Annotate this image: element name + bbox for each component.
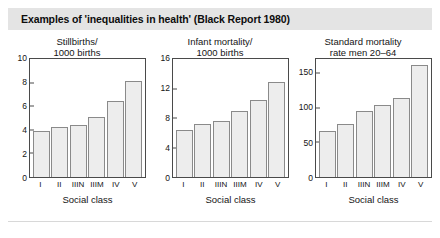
- bar: [33, 131, 50, 177]
- bar-series: [173, 59, 288, 177]
- y-tick-label: 0: [165, 174, 170, 183]
- chart-standard-mortality: Standard mortality rate men 20–64 0 50 1…: [294, 36, 432, 221]
- chart-stillbirths: Stillbirths/ 1000 births 0 2 4 6 8 10: [8, 36, 146, 221]
- bar: [356, 111, 373, 177]
- bottom-divider: [8, 221, 432, 222]
- x-tick-label: I: [317, 180, 336, 189]
- x-tick-label: IV: [249, 180, 268, 189]
- plot-frame: [172, 58, 289, 178]
- x-tick-label: II: [50, 180, 69, 189]
- x-tick-label: IIIM: [373, 180, 392, 189]
- y-tick-label: 6: [22, 102, 27, 111]
- bar: [107, 101, 124, 177]
- bar: [268, 82, 285, 177]
- chart-title-line1: Stillbirths/: [8, 36, 146, 47]
- chart-title-line1: Infant mortality/: [151, 36, 289, 47]
- bar: [337, 124, 354, 177]
- x-tick-label: IIIM: [230, 180, 249, 189]
- y-axis: 0 2 4 6 8 10: [8, 58, 29, 178]
- x-tick-label: I: [174, 180, 193, 189]
- x-axis-title: Social class: [172, 194, 289, 205]
- chart-title-line2: rate men 20–64: [294, 47, 432, 58]
- bar: [70, 125, 87, 178]
- chart-title-line2: 1000 births: [8, 47, 146, 58]
- y-tick-label: 12: [161, 84, 170, 93]
- bar: [213, 121, 230, 177]
- y-tick-label: 4: [22, 126, 27, 135]
- y-tick-label: 0: [22, 174, 27, 183]
- y-tick-label: 0: [308, 174, 313, 183]
- x-axis-labels: IIIIIINIIIMIVV: [172, 180, 289, 189]
- bar: [374, 105, 391, 177]
- bar: [411, 65, 428, 177]
- plot-frame: [29, 58, 146, 178]
- x-tick-label: V: [125, 180, 144, 189]
- y-tick-label: 4: [165, 144, 170, 153]
- plot-area: 0 50 100 150: [294, 58, 432, 178]
- y-tick-label: 8: [22, 78, 27, 87]
- x-tick-label: V: [411, 180, 430, 189]
- y-axis: 0 50 100 150: [294, 58, 315, 178]
- y-tick-label: 50: [304, 138, 313, 147]
- bar: [393, 98, 410, 177]
- chart-title: Stillbirths/ 1000 births: [8, 36, 146, 58]
- chart-title-line1: Standard mortality: [294, 36, 432, 47]
- figure-panel: Examples of 'inequalities in health' (Bl…: [0, 0, 440, 238]
- chart-title: Infant mortality/ 1000 births: [151, 36, 289, 58]
- x-axis-title: Social class: [29, 194, 146, 205]
- figure-title-bar: Examples of 'inequalities in health' (Bl…: [8, 8, 432, 30]
- y-tick-label: 16: [161, 54, 170, 63]
- x-tick-label: II: [193, 180, 212, 189]
- bar: [176, 130, 193, 177]
- bar: [88, 117, 105, 177]
- plot-frame: [315, 58, 432, 178]
- plot-area: 0 4 8 12 16: [151, 58, 289, 178]
- x-axis-title: Social class: [315, 194, 432, 205]
- bar: [231, 111, 248, 177]
- x-tick-label: I: [31, 180, 50, 189]
- chart-title: Standard mortality rate men 20–64: [294, 36, 432, 58]
- bar: [51, 127, 68, 177]
- y-tick-label: 8: [165, 114, 170, 123]
- bar: [125, 81, 142, 177]
- bar: [319, 131, 336, 178]
- x-tick-label: IIIN: [212, 180, 231, 189]
- x-tick-label: V: [268, 180, 287, 189]
- page-title: Examples of 'inequalities in health' (Bl…: [8, 13, 290, 25]
- y-tick-label: 2: [22, 150, 27, 159]
- x-tick-label: IIIM: [87, 180, 106, 189]
- y-tick-label: 150: [299, 68, 313, 77]
- charts-container: Stillbirths/ 1000 births 0 2 4 6 8 10: [8, 36, 432, 221]
- chart-title-line2: 1000 births: [151, 47, 289, 58]
- chart-infant-mortality: Infant mortality/ 1000 births 0 4 8 12 1…: [151, 36, 289, 221]
- y-axis: 0 4 8 12 16: [151, 58, 172, 178]
- y-tick-label: 100: [299, 103, 313, 112]
- x-tick-label: IV: [106, 180, 125, 189]
- x-tick-label: IIIN: [355, 180, 374, 189]
- plot-area: 0 2 4 6 8 10: [8, 58, 146, 178]
- bar-series: [30, 59, 145, 177]
- bar: [194, 124, 211, 177]
- x-tick-label: IIIN: [69, 180, 88, 189]
- bar: [250, 100, 267, 177]
- x-tick-label: IV: [392, 180, 411, 189]
- bar-series: [316, 59, 431, 177]
- y-tick-label: 10: [18, 54, 27, 63]
- x-axis-labels: IIIIIINIIIMIVV: [315, 180, 432, 189]
- x-axis-labels: IIIIIINIIIMIVV: [29, 180, 146, 189]
- x-tick-label: II: [336, 180, 355, 189]
